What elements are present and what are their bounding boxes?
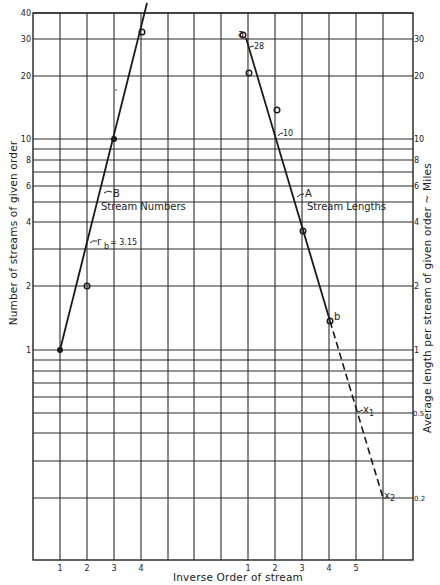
stray-dot: [115, 89, 117, 91]
svg-text:4: 4: [414, 218, 419, 227]
data-point: [57, 347, 63, 353]
svg-text:4: 4: [326, 564, 331, 573]
svg-text:8: 8: [414, 156, 419, 165]
svg-text:b: b: [104, 242, 109, 251]
svg-text:Stream Lengths: Stream Lengths: [307, 201, 386, 212]
svg-text:3: 3: [111, 564, 116, 573]
stream-order-chart: 40 30 20 10 8 6 4 2 1 30 20 10 8 6 4 2 1…: [0, 0, 440, 585]
svg-text:= 3.15: = 3.15: [110, 238, 137, 247]
svg-text:5: 5: [353, 564, 358, 573]
svg-text:40: 40: [21, 9, 31, 18]
svg-text:A: A: [305, 188, 312, 199]
svg-text:2: 2: [84, 564, 89, 573]
svg-text:1: 1: [369, 409, 374, 418]
svg-text:0.2: 0.2: [414, 495, 425, 503]
x-axis-title: Inverse Order of stream: [173, 571, 303, 583]
svg-text:1: 1: [26, 346, 31, 355]
data-point: [111, 136, 117, 142]
svg-text:6: 6: [414, 182, 419, 191]
svg-text:b: b: [334, 311, 340, 322]
svg-text:6: 6: [26, 182, 31, 191]
svg-text:4: 4: [26, 218, 31, 227]
left-y-axis-title: Number of streams of given order: [7, 140, 19, 325]
svg-text:2: 2: [414, 282, 419, 291]
svg-text:2: 2: [26, 282, 31, 291]
svg-text:10: 10: [21, 135, 31, 144]
svg-text:a: a: [238, 28, 244, 39]
svg-text:20: 20: [414, 72, 424, 81]
svg-text:8: 8: [26, 156, 31, 165]
svg-text:1: 1: [57, 564, 62, 573]
svg-text:B: B: [113, 188, 120, 199]
svg-text:4: 4: [138, 564, 143, 573]
svg-text:10: 10: [414, 135, 424, 144]
right-y-axis-title: Average length per stream of given order…: [421, 163, 433, 433]
svg-text:1: 1: [414, 346, 419, 355]
svg-text:2: 2: [390, 494, 395, 503]
svg-text:20: 20: [21, 72, 31, 81]
svg-text:Stream Numbers: Stream Numbers: [101, 201, 186, 212]
svg-text:28: 28: [254, 42, 264, 51]
svg-text:30: 30: [414, 35, 424, 44]
svg-text:30: 30: [21, 35, 31, 44]
svg-text:10: 10: [283, 129, 293, 138]
